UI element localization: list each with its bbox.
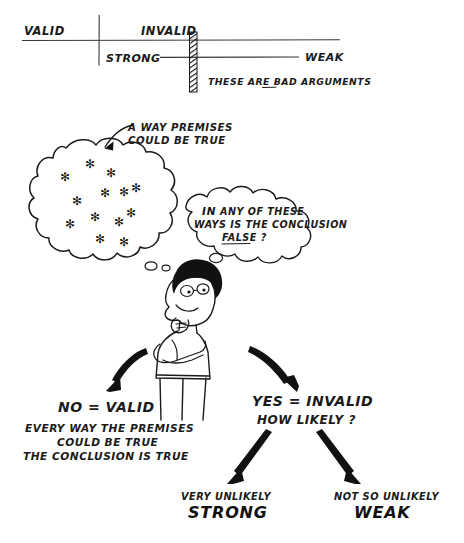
bad-note-suffix: ARGUMENTS <box>297 76 371 87</box>
cloud-star: ✻ <box>95 232 105 246</box>
scale-invalid-label: INVALID <box>141 24 197 38</box>
svg-text:THESE ARE BAD ARGUMENTS: THESE ARE BAD ARGUMENTS <box>208 76 371 87</box>
cloud-star: ✻ <box>106 166 116 180</box>
scale-valid-label: VALID <box>24 24 65 38</box>
branch-no-heading: NO = VALID <box>58 399 155 415</box>
branch-no-detail-1: EVERY WAY THE PREMISES <box>25 422 194 434</box>
cloud-star: ✻ <box>85 157 95 171</box>
cloud-callout-line1: A WAY PREMISES <box>127 122 233 133</box>
thought-line1-rest: ANY OF THESE <box>216 206 304 217</box>
scale-main-line <box>22 40 340 41</box>
subbranch-arrow-strong <box>227 429 272 484</box>
scale-strong-label: STRONG <box>106 52 160 65</box>
thought-line2: WAYS IS THE CONCLUSION <box>194 219 347 230</box>
bad-note-keyword: BAD <box>274 76 298 87</box>
arm-lower <box>163 355 203 363</box>
cloud-star: ✻ <box>119 235 129 249</box>
branch-arrow-no <box>106 348 148 392</box>
branch-no-detail-3: THE CONCLUSION IS TRUE <box>23 450 189 462</box>
thought-bubble-group: IN ANY OF THESE WAYS IS THE CONCLUSION F… <box>145 186 347 277</box>
thought-left-bubble-small <box>162 265 170 271</box>
branch-yes-heading: YES = INVALID <box>252 393 373 409</box>
waist-line <box>157 375 209 376</box>
pupil-left <box>187 290 190 293</box>
eye-left <box>181 286 194 297</box>
cloud-star: ✻ <box>119 185 129 199</box>
cloud-star: ✻ <box>131 181 141 195</box>
branch-yes-question: HOW LIKELY ? <box>257 413 356 427</box>
cloud-star: ✻ <box>114 215 124 229</box>
outcome-strong-label: STRONG <box>188 503 268 522</box>
thought-line1-bold: IN <box>202 205 216 217</box>
cloud-stars: ✻ ✻ ✻ ✻ ✻ ✻ ✻ ✻ ✻ ✻ ✻ ✻ ✻ <box>60 157 141 249</box>
outcome-weak-label: WEAK <box>354 503 411 522</box>
legs <box>160 378 206 420</box>
subbranch-arrow-weak <box>316 429 361 484</box>
cloud-callout-line2: COULD BE TRUE <box>128 135 226 146</box>
thinking-person <box>154 259 222 420</box>
validity-scale: VALID INVALID STRONG WEAK THESE ARE BAD … <box>22 15 371 92</box>
scale-weak-label: WEAK <box>305 51 345 64</box>
finger-lines <box>176 323 186 328</box>
branch-arrow-yes <box>248 346 299 392</box>
mouth <box>176 305 198 311</box>
bad-note-prefix: THESE ARE <box>208 76 274 87</box>
logic-flowchart: VALID INVALID STRONG WEAK THESE ARE BAD … <box>0 0 464 543</box>
bad-arguments-band <box>190 32 198 92</box>
bad-arguments-note: THESE ARE BAD ARGUMENTS <box>208 76 371 88</box>
cloud-star: ✻ <box>65 217 75 231</box>
cloud-star: ✻ <box>90 210 100 224</box>
thought-question-mark: ? <box>257 232 267 243</box>
thought-line1: IN ANY OF THESE <box>202 205 304 217</box>
thought-left-bubble-large <box>145 262 157 270</box>
premises-cloud-group: ✻ ✻ ✻ ✻ ✻ ✻ ✻ ✻ ✻ ✻ ✻ ✻ ✻ A WAY PREMISES… <box>29 122 233 260</box>
false-underline <box>222 244 250 245</box>
outcome-weak-qualifier: NOT SO UNLIKELY <box>334 491 439 502</box>
sleeve-fold <box>172 340 177 360</box>
cloud-star: ✻ <box>72 194 82 208</box>
branch-no-detail-2: COULD BE TRUE <box>57 436 159 448</box>
outcome-strong-qualifier: VERY UNLIKELY <box>181 491 271 502</box>
thought-false-word: FALSE <box>222 232 257 243</box>
outcome-strong-group: VERY UNLIKELY STRONG <box>181 491 271 522</box>
thought-line3: FALSE ? <box>222 232 267 243</box>
branch-no-group: NO = VALID EVERY WAY THE PREMISES COULD … <box>23 399 194 462</box>
cloud-star: ✻ <box>126 206 136 220</box>
branch-yes-group: YES = INVALID HOW LIKELY ? <box>252 393 373 427</box>
cloud-star: ✻ <box>100 186 110 200</box>
outcome-weak-group: NOT SO UNLIKELY WEAK <box>334 491 439 522</box>
cloud-star: ✻ <box>60 170 70 184</box>
pupil-right <box>202 288 205 291</box>
thought-tail-bubble-large <box>210 253 223 262</box>
